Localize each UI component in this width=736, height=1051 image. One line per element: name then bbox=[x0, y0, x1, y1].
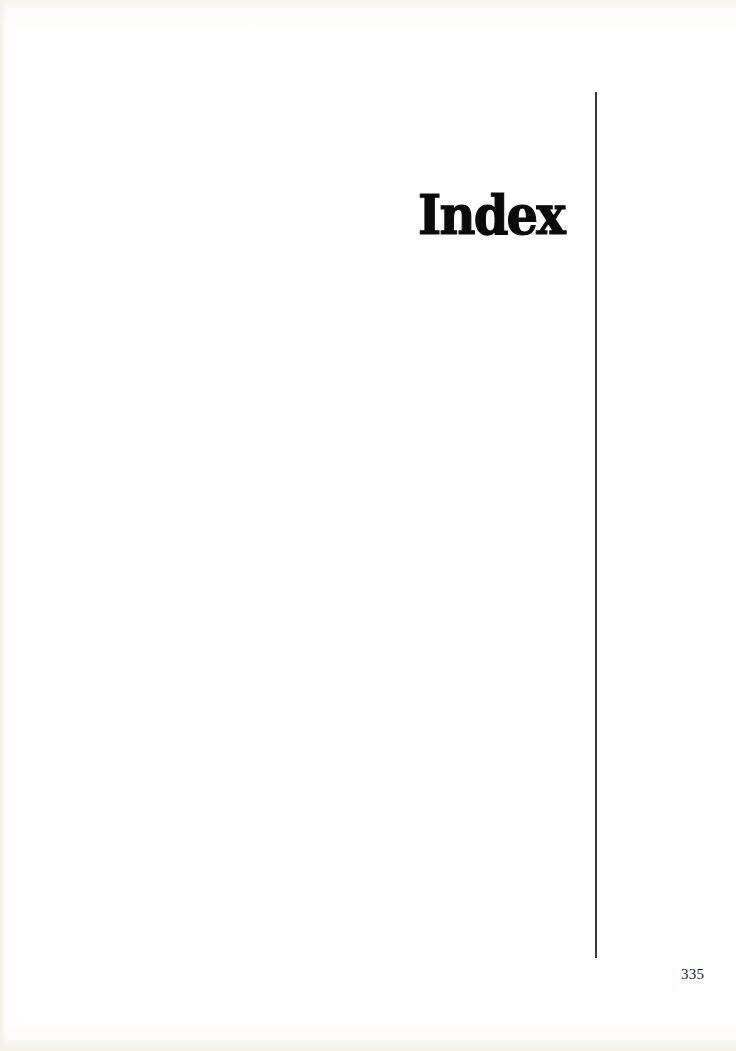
page-edge-shadow bbox=[0, 0, 6, 1051]
index-title: Index bbox=[418, 188, 564, 242]
book-page: Index 335 bbox=[0, 0, 736, 1051]
vertical-rule bbox=[595, 92, 597, 958]
page-number: 335 bbox=[681, 966, 704, 983]
